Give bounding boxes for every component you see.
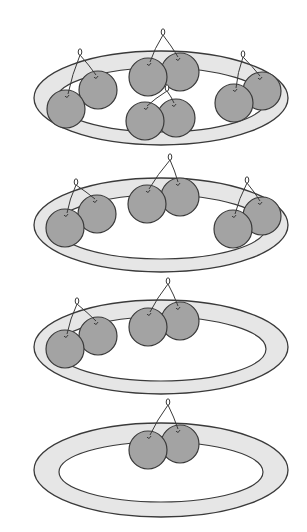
cherry xyxy=(46,209,84,247)
stem-knot xyxy=(74,179,78,185)
cherry-pair xyxy=(129,29,199,96)
stem-knot xyxy=(165,85,169,91)
stem-knot xyxy=(168,154,172,160)
stem-knot xyxy=(75,298,79,304)
stem-knot xyxy=(245,177,249,183)
plate-2 xyxy=(34,154,288,272)
cherry-pair xyxy=(129,399,199,469)
cherry-plates-illustration xyxy=(0,0,307,532)
cherry xyxy=(47,90,85,128)
cherry xyxy=(128,185,166,223)
plate-4 xyxy=(34,399,288,517)
cherry xyxy=(215,84,253,122)
stem-knot xyxy=(166,399,170,405)
cherry-pair xyxy=(129,278,199,346)
cherry-pair xyxy=(128,154,199,223)
cherry xyxy=(129,308,167,346)
stem-knot xyxy=(161,29,165,35)
stem-knot xyxy=(166,278,170,284)
cherry xyxy=(46,330,84,368)
cherry xyxy=(129,58,167,96)
plate-3 xyxy=(34,278,288,394)
cherry xyxy=(129,431,167,469)
stem-knot xyxy=(78,49,82,55)
cherry xyxy=(126,102,164,140)
stem-knot xyxy=(241,51,245,57)
illustration-canvas xyxy=(0,0,307,532)
cherry xyxy=(214,210,252,248)
plate-1 xyxy=(34,29,288,145)
